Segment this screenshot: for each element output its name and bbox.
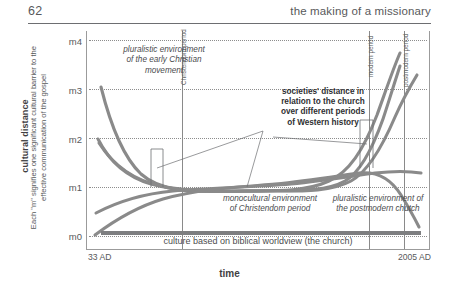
leader-line-early bbox=[157, 131, 263, 168]
y-axis-subtitle: Each "m" signifies one significant cultu… bbox=[29, 33, 48, 243]
y-axis-subtitle-wrap: Each "m" signifies one significant cultu… bbox=[27, 36, 51, 246]
x-tick-end: 2005 AD bbox=[398, 252, 431, 262]
y-tick-m1: m1 bbox=[52, 182, 82, 193]
header-rule bbox=[28, 23, 431, 24]
annotation-early-christian: pluralistic environment of the early Chr… bbox=[97, 45, 231, 76]
y-tick-m2: m2 bbox=[52, 134, 82, 145]
leader-line-christendom bbox=[247, 131, 263, 187]
page: 62 the making of a missionary cultural d… bbox=[0, 0, 459, 290]
page-number: 62 bbox=[28, 4, 42, 18]
leader-line-modern bbox=[273, 137, 367, 144]
y-tick-m0: m0 bbox=[52, 231, 82, 242]
annotation-christendom: monocultural environment of Christendom … bbox=[205, 194, 335, 215]
x-axis-title: time bbox=[0, 268, 459, 279]
running-title: the making of a missionary bbox=[290, 5, 431, 17]
x-tick-start: 33 AD bbox=[88, 252, 111, 262]
running-head: 62 the making of a missionary bbox=[0, 4, 459, 26]
baseline-band-label: culture based on biblical worldview (the… bbox=[87, 236, 429, 246]
chart-plot-area: Christendom period modern period postmod… bbox=[86, 31, 430, 250]
annotation-postmodern: pluralistic environment of the postmoder… bbox=[327, 194, 429, 215]
y-tick-m3: m3 bbox=[52, 85, 82, 96]
annotation-societies-distance: societies' distance in relation to the c… bbox=[263, 87, 383, 128]
y-tick-m4: m4 bbox=[52, 36, 82, 47]
